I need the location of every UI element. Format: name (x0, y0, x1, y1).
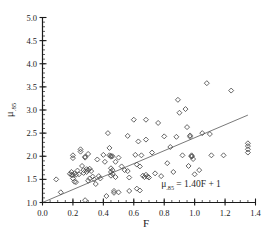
data-point-marker (159, 174, 164, 179)
data-point-marker (133, 152, 138, 157)
data-point-marker (245, 150, 250, 155)
data-point-marker (192, 172, 197, 177)
data-point-marker (156, 120, 161, 125)
x-tick-label: 1.4 (250, 208, 261, 218)
data-points-layer (54, 81, 251, 203)
x-axis-title: F (143, 217, 149, 229)
data-point-marker (185, 125, 190, 130)
data-point-marker (113, 159, 118, 164)
chart-figure: 0.00.20.40.60.81.01.21.4 1.01.52.02.53.0… (0, 0, 270, 233)
regression-equation-annotation: μ.85 = 1.40F + 1 (161, 179, 221, 190)
y-tick-label: 1.0 (26, 198, 37, 208)
y-axis-title-subscript: .85 (10, 102, 17, 111)
y-axis-title: μ.85 (3, 102, 17, 117)
equation-subscript: .85 (166, 184, 174, 191)
data-point-marker (162, 134, 167, 139)
equation-body: = 1.40F + 1 (174, 179, 221, 189)
data-point-marker (54, 177, 59, 182)
data-point-marker (174, 134, 179, 139)
x-tick-label: 1.2 (220, 208, 231, 218)
data-point-marker (229, 88, 234, 93)
data-point-marker (143, 137, 148, 142)
data-point-marker (112, 190, 117, 195)
data-point-marker (137, 164, 142, 169)
data-point-marker (127, 188, 132, 193)
data-point-marker (127, 175, 132, 180)
data-point-marker (116, 190, 121, 195)
data-point-marker (101, 152, 106, 157)
data-point-marker (134, 186, 139, 191)
x-tick-labels: 0.00.20.40.60.81.01.21.4 (37, 208, 261, 218)
x-tick-label: 0.6 (128, 208, 139, 218)
data-point-marker (143, 117, 148, 122)
data-point-marker (131, 117, 136, 122)
y-tick-label: 2.5 (26, 128, 37, 138)
y-tick-labels: 1.01.52.02.53.03.54.04.55.0 (26, 13, 37, 208)
data-point-marker (204, 81, 209, 86)
data-point-marker (209, 153, 214, 158)
data-point-marker (139, 153, 144, 158)
equation-text: μ.85 = 1.40F + 1 (161, 179, 221, 190)
y-tick-label: 3.5 (26, 82, 37, 92)
data-point-marker (197, 168, 202, 173)
data-point-marker (137, 188, 142, 193)
data-point-marker (165, 161, 170, 166)
data-point-marker (175, 97, 180, 102)
data-point-marker (186, 163, 191, 168)
y-tick-label: 5.0 (26, 13, 37, 23)
data-point-marker (107, 145, 112, 150)
x-tick-label: 1.0 (189, 208, 200, 218)
scatter-plot: 0.00.20.40.60.81.01.21.4 1.01.52.02.53.0… (0, 0, 270, 233)
x-tick-label: 0.4 (98, 208, 109, 218)
x-tick-label: 0.0 (37, 208, 48, 218)
data-point-marker (180, 153, 185, 158)
y-tick-label: 1.5 (26, 174, 37, 184)
regression-line-path (43, 115, 248, 202)
data-point-marker (116, 155, 121, 160)
y-tick-label: 4.0 (26, 59, 37, 69)
x-tick-label: 0.2 (68, 208, 79, 218)
data-point-marker (95, 157, 100, 162)
data-point-marker (105, 131, 110, 136)
y-tick-label: 4.5 (26, 36, 37, 46)
data-point-marker (177, 110, 182, 115)
y-tick-label: 2.0 (26, 151, 37, 161)
y-tick-label: 3.0 (26, 105, 37, 115)
data-point-marker (153, 171, 158, 176)
data-point-marker (183, 107, 188, 112)
data-point-marker (125, 133, 130, 138)
data-point-marker (171, 169, 176, 174)
svg-text:μ.85: μ.85 (3, 102, 17, 117)
regression-line (43, 115, 248, 202)
x-tick-label: 0.8 (159, 208, 170, 218)
data-point-marker (104, 194, 109, 199)
data-point-marker (221, 153, 226, 158)
data-point-marker (102, 159, 107, 164)
data-point-marker (150, 150, 155, 155)
data-point-marker (112, 188, 117, 193)
data-point-marker (245, 147, 250, 152)
data-point-marker (136, 139, 141, 144)
data-point-marker (93, 182, 98, 187)
